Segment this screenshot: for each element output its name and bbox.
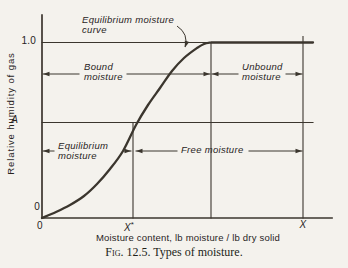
x-tick-x: X: [293, 220, 313, 230]
unbound-moisture-arrow-head: [212, 72, 219, 77]
annotation-arrow: [177, 26, 186, 47]
annotation-arrow-head: [185, 41, 189, 48]
y-tick-saturation: 1.0: [10, 36, 36, 46]
bound-moisture-arrow-head: [204, 72, 211, 77]
unbound-moisture-label: Unbound moisture: [242, 62, 283, 81]
unbound-moisture-line2: moisture: [242, 72, 283, 82]
equilibrium-moisture-arrow-head: [43, 149, 50, 154]
x-tick-xstar-base: X: [124, 222, 131, 233]
free-moisture-arrow-head: [296, 149, 303, 154]
bound-moisture-line2: moisture: [84, 72, 123, 82]
bound-moisture-label: Bound moisture: [84, 62, 123, 81]
figure-caption-fig: Fig.: [105, 245, 123, 259]
equilibrium-moisture-label: Equilibrium moisture: [58, 141, 108, 160]
equilibrium-moisture-line2: moisture: [58, 151, 108, 161]
free-moisture-arrow-head: [136, 149, 143, 154]
y-tick-zero: 0: [20, 202, 40, 212]
curve-annotation: Equilibrium moisture curve: [82, 15, 174, 34]
bound-moisture-arrow-head: [43, 72, 50, 77]
figure-caption-text: 12.5. Types of moisture.: [123, 245, 242, 259]
y-tick-a: A: [2, 115, 18, 125]
unbound-moisture-arrow-head: [296, 72, 303, 77]
x-tick-zero: 0: [30, 221, 50, 231]
equilibrium-moisture-arrow-head: [125, 149, 132, 154]
free-moisture-label: Free moisture: [181, 145, 244, 155]
figure-12-5-types-of-moisture: Relative humidity of gas Moisture conten…: [0, 0, 348, 268]
curve-annotation-line2: curve: [82, 25, 174, 35]
x-tick-xstar: X*: [115, 220, 143, 233]
x-axis-title: Moisture content, lb moisture / lb dry s…: [40, 232, 336, 243]
x-tick-xstar-asterisk: *: [131, 220, 134, 229]
figure-caption: Fig. 12.5. Types of moisture.: [0, 245, 348, 260]
